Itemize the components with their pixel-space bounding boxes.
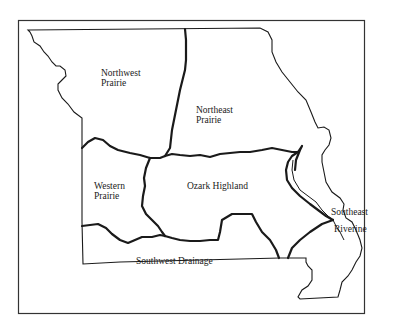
region-name-line1: Western [94, 181, 125, 191]
boundary-river-junction [295, 146, 302, 170]
boundary-northwest-west [82, 138, 165, 158]
region-name-line2: Riverine [334, 224, 368, 234]
boundary-nw-ne [165, 29, 186, 156]
label-southwest-drainage: Southwest Drainage [136, 256, 213, 266]
label-northwest-prairie: Northwest Prairie [101, 68, 141, 88]
region-name-line2: Prairie [196, 115, 233, 125]
region-name-line1: Southeast [331, 207, 368, 217]
map-border [19, 21, 365, 314]
label-western-prairie: Western Prairie [94, 181, 125, 201]
boundary-southeast-southwest [288, 220, 333, 258]
missouri-regions-map: Northwest Prairie Northeast Prairie West… [0, 0, 395, 329]
boundary-ozark-southwest [165, 214, 279, 258]
boundary-western-ozark [142, 158, 165, 236]
boundary-western-southwest [82, 224, 165, 243]
label-ozark-highland: Ozark Highland [187, 181, 248, 191]
label-southeast-riverine: Southeast Riverine [331, 207, 368, 234]
region-name-line1: Southwest Drainage [136, 256, 213, 266]
region-name-line1: Northeast [196, 105, 233, 115]
boundary-northeast-ozark [165, 148, 298, 157]
region-boundaries [82, 29, 333, 258]
region-name-line1: Ozark Highland [187, 181, 248, 191]
map-canvas [0, 0, 395, 329]
region-name-line2: Prairie [94, 191, 125, 201]
region-name-line1: Northwest [101, 68, 141, 78]
label-northeast-prairie: Northeast Prairie [196, 105, 233, 125]
region-name-line2: Prairie [101, 78, 141, 88]
